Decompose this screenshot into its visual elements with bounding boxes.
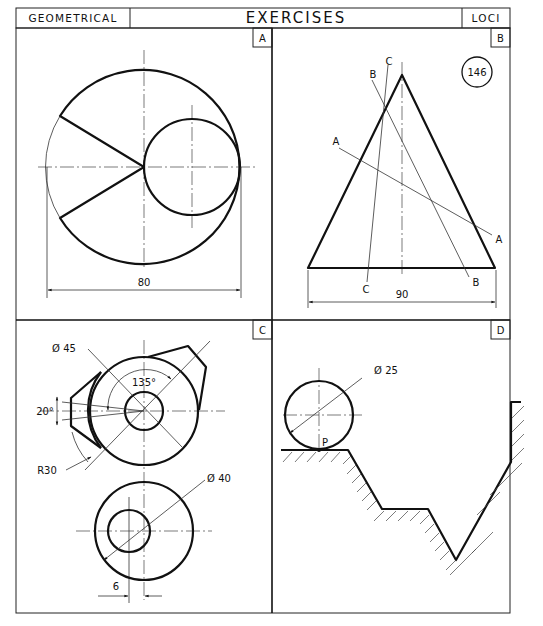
- panel-b-line-a-start-label: A: [333, 136, 340, 147]
- panel-b-line-a-end-label: A: [496, 234, 503, 245]
- panel-c-angle-ray-lower: [62, 411, 144, 420]
- panel-c-radial-line-135: [85, 341, 210, 470]
- panel-b-line-c-end-label: C: [363, 284, 370, 295]
- panel-b-line-a: [339, 148, 492, 235]
- hatch-line: [386, 511, 396, 521]
- hatch-line: [446, 560, 456, 570]
- panel-c-label: C: [259, 325, 266, 336]
- panel-c-dim-angle-20: 20°: [36, 406, 54, 417]
- header-right-title: LOCI: [472, 12, 501, 24]
- panel-b-line-c: [367, 65, 388, 282]
- hatch-line: [283, 452, 292, 462]
- hatch-line: [357, 483, 366, 492]
- panel-b: B 146 A A B B C C 90: [308, 28, 510, 308]
- header-left-title: GEOMETRICAL: [28, 12, 117, 24]
- panel-b-exercise-number: 146: [467, 67, 486, 78]
- hatch-line: [362, 492, 371, 501]
- hatch-line: [295, 452, 304, 462]
- hatch-line: [343, 456, 351, 464]
- panel-c: C Ø 45 135° 20° R30 Ø 40 6: [36, 320, 272, 603]
- hatch-line: [331, 452, 340, 462]
- title-block: GEOMETRICAL EXERCISES LOCI: [16, 8, 510, 28]
- panel-a-dimension-text: 80: [138, 277, 151, 288]
- hatch-line: [472, 532, 493, 553]
- panel-d-ground-profile: [281, 402, 521, 560]
- panel-d-point-p-label: P: [322, 437, 328, 448]
- hatch-line: [512, 434, 524, 446]
- panel-c-dim-offset: 6: [113, 581, 119, 592]
- hatch-line: [420, 515, 429, 524]
- hatch-line: [435, 542, 444, 551]
- panel-a: A 80: [38, 28, 272, 298]
- panel-c-angle-ray-upper: [62, 402, 144, 411]
- panel-a-label: A: [259, 33, 266, 44]
- hatch-line: [410, 511, 420, 521]
- panel-c-dim-outer-diameter: Ø 45: [52, 343, 76, 354]
- hatch-line: [307, 452, 316, 462]
- panel-b-line-b: [372, 80, 469, 277]
- panel-b-line-b-start-label: B: [370, 69, 377, 80]
- panel-c-dim-wheel-diameter: Ø 40: [207, 473, 231, 484]
- panel-d-label: D: [497, 325, 505, 336]
- hatch-line: [477, 492, 500, 515]
- drawing-sheet: GEOMETRICAL EXERCISES LOCI A 80 B 146: [0, 0, 543, 626]
- hatch-line: [430, 533, 439, 542]
- panel-d-ground-hatching: [283, 406, 524, 575]
- hatch-line: [512, 406, 524, 418]
- hatch-line: [352, 474, 361, 483]
- hatch-line: [374, 511, 384, 521]
- panel-b-label: B: [497, 33, 504, 44]
- hatch-line: [319, 452, 328, 462]
- hatch-line: [347, 465, 356, 474]
- panel-b-line-c-start-label: C: [386, 56, 393, 67]
- panel-b-line-b-end-label: B: [473, 277, 480, 288]
- panel-c-dim-radius: R30: [37, 465, 57, 476]
- hatch-line: [512, 420, 524, 432]
- header-main-title: EXERCISES: [246, 9, 346, 27]
- hatch-line: [425, 524, 434, 533]
- hatch-line: [512, 448, 524, 460]
- hatch-line: [440, 551, 449, 560]
- panel-c-dim-angle-135: 135°: [132, 377, 156, 388]
- hatch-line: [398, 511, 408, 521]
- panel-b-triangle: [308, 75, 495, 268]
- panel-d: D Ø 25 P: [281, 320, 524, 575]
- hatch-line: [367, 501, 376, 510]
- panel-b-dimension-text: 90: [396, 289, 409, 300]
- hatch-line: [490, 463, 522, 495]
- panel-d-dim-diameter: Ø 25: [374, 365, 398, 376]
